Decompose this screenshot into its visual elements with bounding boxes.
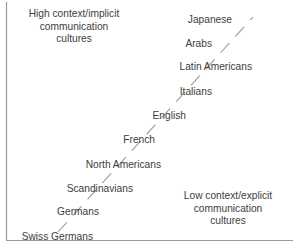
culture-label: English — [153, 110, 186, 122]
culture-label: Scandinavians — [67, 183, 133, 195]
culture-label: Italians — [180, 86, 212, 98]
high-context-note: High context/implicit communication cult… — [12, 8, 136, 46]
culture-label: North Americans — [86, 159, 161, 171]
culture-label: Japanese — [188, 14, 232, 26]
culture-label: Germans — [57, 206, 99, 218]
culture-label: Latin Americans — [180, 61, 252, 73]
culture-label: Swiss Germans — [22, 231, 93, 243]
culture-context-diagram: High context/implicit communication cult… — [0, 0, 294, 250]
culture-label: Arabs — [185, 38, 212, 50]
culture-label: French — [123, 134, 155, 146]
low-context-note: Low context/explicit communication cultu… — [168, 190, 288, 228]
